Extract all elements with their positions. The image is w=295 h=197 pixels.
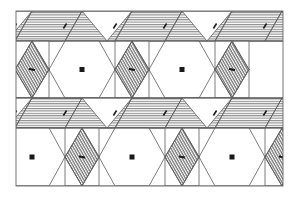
hexagon-motif — [180, 67, 185, 72]
tessellation-figure — [0, 0, 295, 197]
white-triangle-tile — [282, 128, 295, 157]
white-triangle-tile — [282, 157, 295, 186]
hexagon-motif — [80, 67, 85, 72]
pattern-canvas — [0, 0, 295, 197]
white-triangle-tile — [282, 11, 295, 41]
hexagon-motif — [30, 155, 35, 160]
hexagon-motif — [130, 155, 135, 160]
hexagon-motif — [230, 155, 235, 160]
white-triangle-tile — [282, 98, 295, 128]
